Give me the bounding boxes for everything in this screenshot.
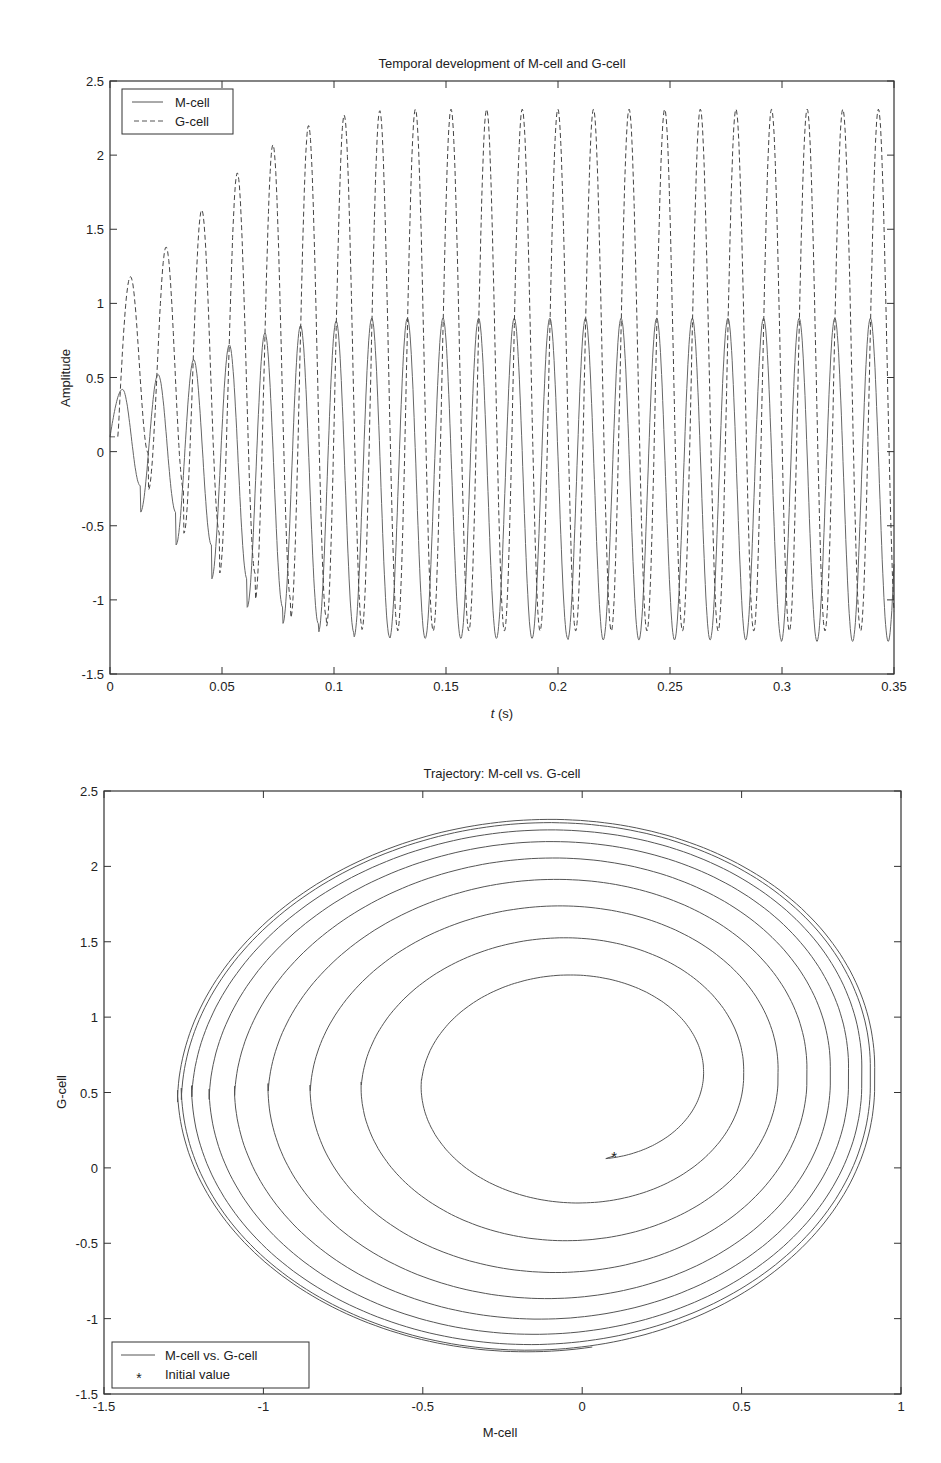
y-tick-label: 2.5	[86, 74, 104, 89]
x-tick-label: 0.15	[433, 679, 458, 694]
x-tick-label: 0.25	[657, 679, 682, 694]
y-tick-label: 2	[91, 859, 98, 874]
g-cell-series-line	[110, 109, 894, 631]
y-tick-label: 1.5	[86, 222, 104, 237]
x-tick-label: 0	[579, 1399, 586, 1414]
y-tick-label: -1.5	[82, 667, 104, 682]
chart2-title: Trajectory: M-cell vs. G-cell	[424, 766, 581, 781]
y-tick-label: -0.5	[82, 519, 104, 534]
y-tick-label: 2	[97, 148, 104, 163]
trajectory-chart: Trajectory: M-cell vs. G-cell * -1.5-1-0…	[54, 766, 905, 1440]
chart1-title: Temporal development of M-cell and G-cel…	[378, 56, 625, 71]
chart2-ylabel: G-cell	[54, 1075, 69, 1109]
x-tick-label: -0.5	[412, 1399, 434, 1414]
trajectory-line	[178, 819, 875, 1351]
x-tick-label: 0.05	[209, 679, 234, 694]
x-tick-label: 1	[897, 1399, 904, 1414]
y-tick-label: 0.5	[86, 371, 104, 386]
y-tick-label: 1	[97, 296, 104, 311]
y-tick-label: 0	[91, 1161, 98, 1176]
y-tick-label: 1	[91, 1010, 98, 1025]
y-tick-label: -1	[92, 593, 104, 608]
figure: Temporal development of M-cell and G-cel…	[0, 0, 941, 1463]
legend-g-cell: G-cell	[175, 114, 209, 129]
x-tick-label: 0.2	[549, 679, 567, 694]
chart2-axes-box	[104, 791, 901, 1394]
y-tick-label: -0.5	[76, 1236, 98, 1251]
legend-m-cell: M-cell	[175, 95, 210, 110]
y-tick-label: 0	[97, 445, 104, 460]
chart2-xlabel: M-cell	[483, 1425, 518, 1440]
x-tick-label: 0.35	[881, 679, 906, 694]
legend-initial-value: Initial value	[165, 1367, 230, 1382]
chart1-ticks: 00.050.10.150.20.250.30.35-1.5-1-0.500.5…	[82, 74, 907, 694]
y-tick-label: 2.5	[80, 784, 98, 799]
chart1-xlabel: t (s)	[491, 706, 513, 721]
y-tick-label: -1.5	[76, 1387, 98, 1402]
x-tick-label: 0.1	[325, 679, 343, 694]
chart1-plot-lines	[110, 109, 894, 641]
x-tick-label: 0.3	[773, 679, 791, 694]
y-tick-label: -1	[86, 1312, 98, 1327]
chart1-legend: M-cell G-cell	[122, 89, 233, 134]
temporal-chart: Temporal development of M-cell and G-cel…	[58, 56, 907, 721]
x-tick-label: 0.5	[733, 1399, 751, 1414]
chart2-plot-lines: *	[178, 819, 875, 1351]
chart1-ylabel: Amplitude	[58, 349, 73, 407]
y-tick-label: 0.5	[80, 1086, 98, 1101]
chart2-legend: M-cell vs. G-cell * Initial value	[112, 1342, 309, 1388]
x-tick-label: -1	[258, 1399, 270, 1414]
x-tick-label: 0	[106, 679, 113, 694]
legend-asterisk-icon: *	[136, 1370, 142, 1386]
y-tick-label: 1.5	[80, 935, 98, 950]
legend-trajectory: M-cell vs. G-cell	[165, 1348, 258, 1363]
m-cell-series-line	[110, 318, 894, 641]
chart2-ticks: -1.5-1-0.500.51-1.5-1-0.500.511.522.5	[76, 784, 905, 1414]
initial-value-marker-icon: *	[611, 1148, 617, 1165]
